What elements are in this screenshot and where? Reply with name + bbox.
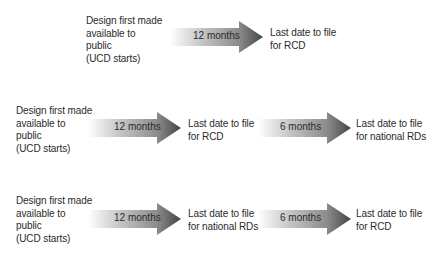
duration-arrow: 12 months xyxy=(170,21,263,53)
duration-arrow: 12 months xyxy=(88,203,181,235)
duration-arrow: 6 months xyxy=(258,203,351,235)
start-event-label: Design first made available to public (U… xyxy=(16,105,92,155)
mid-event-label: Last date to file for RCD xyxy=(188,118,254,143)
duration-label: 12 months xyxy=(114,121,161,132)
start-event-label: Design first made available to public (U… xyxy=(16,195,92,245)
duration-label: 12 months xyxy=(114,212,161,223)
mid-event-label: Last date to file for national RDs xyxy=(188,208,258,233)
duration-label: 6 months xyxy=(280,121,321,132)
duration-arrow: 12 months xyxy=(88,112,181,144)
duration-label: 6 months xyxy=(280,212,321,223)
end-event-label: Last date to file for national RDs xyxy=(356,118,426,143)
end-event-label: Last date to file for RCD xyxy=(270,27,336,52)
end-event-label: Last date to file for RCD xyxy=(356,208,422,233)
duration-arrow: 6 months xyxy=(258,112,351,144)
duration-label: 12 months xyxy=(193,30,240,41)
start-event-label: Design first made available to public (U… xyxy=(86,15,162,65)
